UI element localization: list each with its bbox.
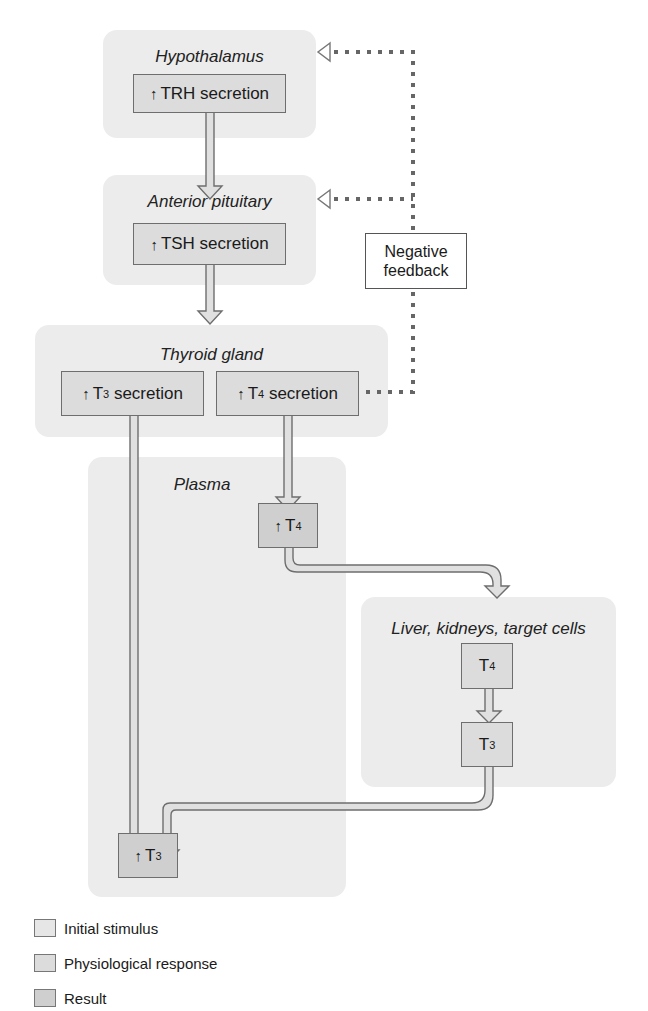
increase-arrow-icon: ↑	[150, 236, 158, 253]
legend-item-result: Result	[34, 989, 107, 1007]
increase-arrow-icon: ↑	[150, 85, 158, 102]
legend-swatch	[34, 954, 56, 972]
negative-feedback-label: Negative feedback	[365, 233, 467, 289]
legend-swatch	[34, 989, 56, 1007]
legend-item-physiological-response: Physiological response	[34, 954, 217, 972]
t4-secretion-box: ↑ T4 secretion	[216, 371, 359, 416]
arrow-t4-secretion-to-plasma-t4	[276, 415, 300, 510]
arrow-tsh-to-thyroid	[198, 263, 222, 324]
increase-arrow-icon: ↑	[237, 385, 245, 402]
feedback-arrowhead-hypothalamus	[318, 43, 330, 61]
legend-swatch	[34, 919, 56, 937]
arrow-t3-secretion-to-plasma-t3	[122, 415, 146, 863]
tsh-secretion-box: ↑ TSH secretion	[133, 223, 286, 265]
arrow-liver-t4-to-t3	[477, 689, 501, 723]
increase-arrow-icon: ↑	[82, 385, 90, 402]
legend-item-initial-stimulus: Initial stimulus	[34, 919, 158, 937]
t3-secretion-box: ↑ T3 secretion	[61, 371, 204, 416]
connector-layer	[0, 0, 648, 1011]
trh-secretion-box: ↑ TRH secretion	[133, 74, 286, 113]
arrow-plasma-t4-to-liver	[285, 546, 509, 598]
plasma-t4-box: ↑ T4	[258, 503, 318, 548]
arrow-liver-t3-to-plasma-t3	[155, 765, 493, 863]
liver-t4-box: T4	[461, 643, 513, 689]
feedback-arrowhead-pituitary	[318, 190, 330, 208]
plasma-t3-box: ↑ T3	[118, 833, 178, 878]
negative-feedback-line	[334, 52, 413, 392]
increase-arrow-icon: ↑	[134, 847, 142, 864]
liver-t3-box: T3	[461, 722, 513, 767]
increase-arrow-icon: ↑	[274, 517, 282, 534]
arrow-trh-to-tsh	[198, 111, 222, 199]
